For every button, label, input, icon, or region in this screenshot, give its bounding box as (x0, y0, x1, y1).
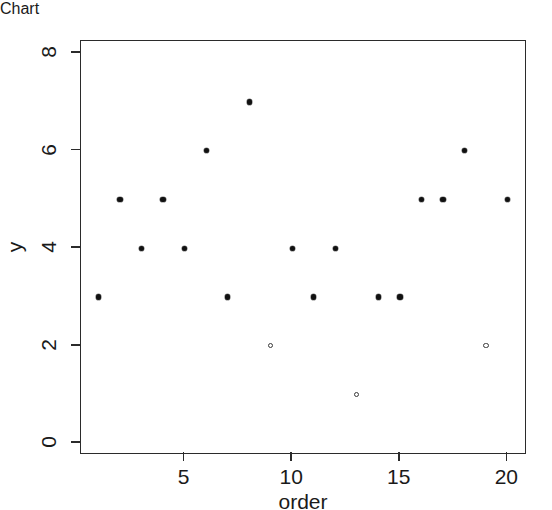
y-axis-tick (71, 51, 80, 53)
x-axis-tick (506, 452, 508, 461)
y-axis-tick-label: 8 (38, 40, 59, 64)
x-axis-tick-label: 15 (369, 466, 429, 487)
y-axis-tick-label: 2 (38, 333, 59, 357)
y-axis-tick-label: 6 (38, 138, 59, 162)
data-point (354, 392, 359, 397)
y-axis-tick (71, 344, 80, 346)
data-point (419, 197, 424, 202)
x-axis-label: order (80, 491, 526, 510)
data-point (333, 246, 338, 251)
x-axis-tick-label: 5 (154, 466, 214, 487)
data-point (440, 197, 445, 202)
y-axis-label: y (4, 242, 25, 253)
y-axis-tick (71, 246, 80, 248)
y-axis-tick-label: 4 (38, 235, 59, 259)
y-axis-tick (71, 441, 80, 443)
data-point (376, 294, 381, 299)
x-axis-tick-label: 10 (261, 466, 321, 487)
data-point (483, 343, 488, 348)
data-point (96, 294, 101, 299)
x-axis-tick (183, 452, 185, 461)
data-point (117, 197, 122, 202)
data-point (225, 294, 230, 299)
data-point (505, 197, 510, 202)
data-point (139, 246, 144, 251)
data-point (247, 99, 252, 104)
data-point (462, 148, 467, 153)
data-point (182, 246, 187, 251)
data-point (311, 294, 316, 299)
data-points-layer (81, 41, 525, 453)
x-axis-tick (398, 452, 400, 461)
scatter-plot-figure: y order 024685101520 (0, 18, 552, 510)
x-axis-tick-label: 20 (476, 466, 536, 487)
data-point (268, 343, 273, 348)
data-point (160, 197, 165, 202)
data-point (204, 148, 209, 153)
data-point (397, 294, 402, 299)
y-axis-tick-label: 0 (38, 430, 59, 454)
y-axis-tick (71, 149, 80, 151)
data-point (290, 246, 295, 251)
plot-area-frame (80, 40, 526, 454)
x-axis-tick (290, 452, 292, 461)
